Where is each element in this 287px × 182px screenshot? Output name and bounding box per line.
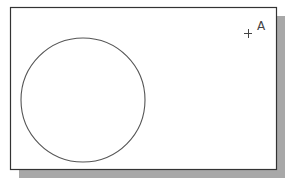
point-label: A [257,19,266,33]
drawing-canvas: A [0,0,287,182]
